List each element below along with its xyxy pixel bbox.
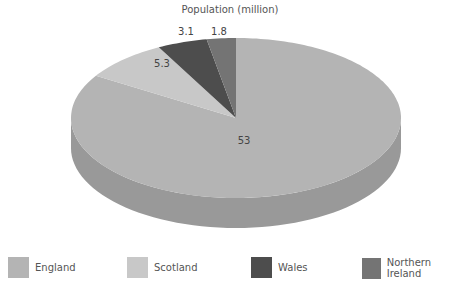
legend-item-wales: Wales xyxy=(251,257,308,278)
legend-swatch-england xyxy=(8,257,29,278)
data-label-england: 53 xyxy=(238,135,251,146)
legend-swatch-scotland xyxy=(127,257,148,278)
data-label-northern-ireland: 1.8 xyxy=(211,26,227,37)
legend-label-scotland: Scotland xyxy=(154,262,197,273)
pie-chart: 535.33.11.8 xyxy=(0,0,460,250)
data-label-scotland: 5.3 xyxy=(154,58,170,69)
pie-slices xyxy=(71,38,401,198)
legend-item-england: England xyxy=(8,257,76,278)
data-label-wales: 3.1 xyxy=(178,26,194,37)
legend-item-northern-ireland: Northern Ireland xyxy=(362,257,460,279)
legend: England Scotland Wales Northern Ireland xyxy=(0,257,460,283)
legend-swatch-wales xyxy=(251,257,272,278)
legend-label-wales: Wales xyxy=(278,262,308,273)
legend-label-northern-ireland: Northern Ireland xyxy=(387,257,460,279)
legend-item-scotland: Scotland xyxy=(127,257,197,278)
legend-swatch-northern-ireland xyxy=(362,258,381,279)
legend-label-england: England xyxy=(35,262,76,273)
